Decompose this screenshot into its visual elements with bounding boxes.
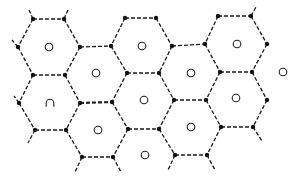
lattice-vertex-dot <box>78 101 82 105</box>
lattice-vertex-dot <box>63 73 67 77</box>
lattice-vertex-dot <box>16 45 20 49</box>
site-open-circle-icon <box>187 123 195 131</box>
lattice-edge <box>205 44 220 72</box>
lattice-vertex-dot <box>265 98 269 102</box>
lattice-vertex-dot <box>125 71 129 75</box>
lattice-vertex-dot <box>154 16 158 20</box>
lattice-vertex-dot <box>250 70 254 74</box>
lattice-vertex-dot <box>111 155 115 159</box>
lattice-edge <box>65 47 80 75</box>
lattice-edge <box>207 127 221 155</box>
lattice-vertex-dot <box>80 155 84 159</box>
lattice-edges <box>18 16 267 157</box>
lattice-vertex-dot <box>31 73 35 77</box>
lattice-vertex-dot <box>173 153 177 157</box>
site-open-circle-icon <box>92 69 100 77</box>
lattice-edge-stub <box>75 157 82 172</box>
site-open-circle-icon <box>233 40 241 48</box>
site-open-circle-icon <box>45 43 53 51</box>
lattice-vertex-dot <box>123 16 127 20</box>
lattice-edge <box>112 73 127 102</box>
lattice-edge <box>159 129 175 155</box>
lattice-vertex-dot <box>78 45 82 49</box>
lattice-edge <box>19 75 33 103</box>
lattice-edge-stub <box>113 157 121 172</box>
lattice-edge <box>206 72 220 100</box>
lattice-vertex-dot <box>64 128 68 132</box>
lattice-edge-stub <box>28 130 35 143</box>
lattice-edge <box>172 44 205 46</box>
lattice-edge <box>113 129 128 157</box>
lattice-vertex-dot <box>265 42 269 46</box>
lattice-vertex-dot <box>205 153 209 157</box>
lattice-edge <box>19 103 35 130</box>
lattice-vertex-dot <box>109 44 113 48</box>
lattice-edge <box>206 100 221 127</box>
lattice-edge <box>18 19 33 47</box>
lattice-edge-bold <box>80 102 112 103</box>
lattice-edge-stub <box>253 127 262 141</box>
site-open-circle-icon <box>279 68 287 76</box>
lattice-vertex-dot <box>219 125 223 129</box>
lattice-edge-stub <box>168 155 175 170</box>
lattice-vertex-dot <box>170 44 174 48</box>
site-open-circle-icon <box>138 42 146 50</box>
lattice-vertex-dot <box>31 17 35 21</box>
lattice-edge <box>112 102 128 129</box>
lattice-edge-stubs <box>12 7 262 172</box>
lattice-edge <box>111 46 127 73</box>
lattice-edge <box>65 75 80 103</box>
lattice-edge <box>18 47 33 75</box>
lattice-vertex-dot <box>203 42 207 46</box>
lattice-edge <box>159 46 172 73</box>
lattice-vertex-dot <box>157 71 161 75</box>
lattice-edge <box>64 19 80 47</box>
lattice-edge <box>159 73 174 100</box>
lattice-vertices <box>16 14 269 159</box>
lattice-vertex-dot <box>62 17 66 21</box>
lattice-edge <box>66 130 82 157</box>
lattice-vertex-dot <box>157 127 161 131</box>
lattice-vertex-dot <box>218 70 222 74</box>
site-open-circle-icon <box>232 94 240 102</box>
lattice-edge <box>156 18 172 46</box>
lattice-edge <box>251 16 267 44</box>
lattice-edge <box>159 100 174 129</box>
site-open-circle-icon <box>187 69 195 77</box>
lattice-edge <box>111 18 125 46</box>
site-arch-icon <box>46 99 54 107</box>
site-open-circle-icon <box>141 151 149 159</box>
site-open-circle-icon <box>94 126 102 134</box>
hexagonal-lattice-diagram <box>0 0 304 181</box>
lattice-edge-stub <box>207 155 215 170</box>
lattice-vertex-dot <box>204 98 208 102</box>
lattice-vertex-dot <box>33 128 37 132</box>
lattice-edge <box>205 16 218 44</box>
site-open-circle-icon <box>140 96 148 104</box>
lattice-vertex-dot <box>216 14 220 18</box>
lattice-vertex-dot <box>251 125 255 129</box>
lattice-edge <box>66 103 80 130</box>
lattice-edge <box>252 72 267 100</box>
lattice-edge <box>253 100 267 127</box>
lattice-vertex-dot <box>249 14 253 18</box>
lattice-vertex-dot <box>126 127 130 131</box>
lattice-vertex-dot <box>172 98 176 102</box>
lattice-vertex-dot <box>110 100 114 104</box>
lattice-edge <box>252 44 267 72</box>
lattice-vertex-dot <box>17 101 21 105</box>
lattice-edge <box>80 46 111 47</box>
